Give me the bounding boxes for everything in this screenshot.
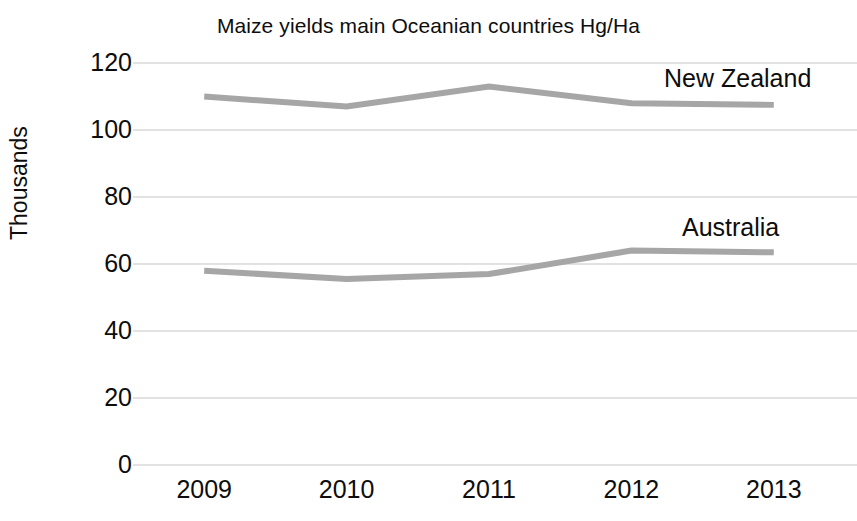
x-tick-label: 2011: [424, 477, 554, 502]
x-tick-label: 2010: [282, 477, 412, 502]
series-label-new-zealand: New Zealand: [664, 64, 811, 93]
line-chart: Maize yields main Oceanian countries Hg/…: [0, 0, 857, 521]
gridline-group: [133, 63, 857, 465]
x-tick-label: 2009: [139, 477, 269, 502]
series-label-australia: Australia: [682, 213, 779, 242]
series-line: [204, 251, 774, 279]
series-line-group: [204, 86, 774, 279]
x-tick-label: 2012: [566, 477, 696, 502]
x-tick-label: 2013: [709, 477, 839, 502]
